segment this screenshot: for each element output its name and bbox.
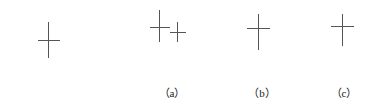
doji-cross-horizontal-line <box>247 28 270 29</box>
candlestick-figure: （a）（b）（c） <box>0 0 388 108</box>
doji-cross-horizontal-line <box>331 26 354 27</box>
group-b: （b） <box>218 0 306 108</box>
group-a: （a） <box>128 0 216 108</box>
doji-cross-horizontal-line <box>38 40 60 41</box>
doji-cross <box>8 0 100 108</box>
group-c: （c） <box>302 0 386 108</box>
doji-cross-small-horizontal-line <box>170 32 186 33</box>
doji-cross-vertical-line <box>258 14 259 50</box>
group-a-caption: （a） <box>128 84 216 100</box>
group-unlabeled <box>8 0 100 108</box>
group-c-caption: （c） <box>302 84 386 100</box>
group-b-caption: （b） <box>218 84 306 100</box>
doji-cross-vertical-line <box>342 14 343 46</box>
